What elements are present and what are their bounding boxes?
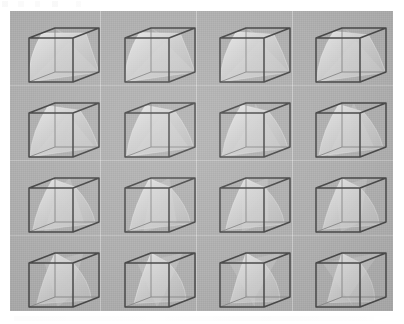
cube-diagram xyxy=(206,87,292,161)
cube-diagram xyxy=(111,237,197,311)
cube-diagram xyxy=(15,237,101,311)
cube-cell xyxy=(106,86,202,161)
cube-cell xyxy=(202,236,298,311)
cube-cell xyxy=(10,236,106,311)
cube-diagram xyxy=(302,237,388,311)
cube-cell xyxy=(297,11,393,86)
cube-cell xyxy=(297,86,393,161)
cube-diagram xyxy=(111,12,197,86)
cube-cell xyxy=(106,11,202,86)
cube-diagram xyxy=(206,162,292,236)
cube-cell xyxy=(297,236,393,311)
cube-cell xyxy=(106,161,202,236)
scan-noise-top xyxy=(2,1,122,7)
cube-cell xyxy=(202,86,298,161)
cube-diagram xyxy=(111,162,197,236)
cube-cell xyxy=(202,161,298,236)
figure-root xyxy=(0,0,404,324)
cube-diagram xyxy=(15,87,101,161)
cube-cell xyxy=(297,161,393,236)
cube-diagram xyxy=(206,237,292,311)
cube-diagram xyxy=(15,162,101,236)
cube-cell xyxy=(10,86,106,161)
cube-diagram xyxy=(302,162,388,236)
cube-diagram xyxy=(302,87,388,161)
scan-noise-bottom xyxy=(14,316,374,321)
cube-cell xyxy=(10,161,106,236)
cube-grid xyxy=(10,11,393,311)
cube-diagram xyxy=(302,12,388,86)
cube-diagram xyxy=(206,12,292,86)
figure-panel xyxy=(10,11,393,311)
cube-cell xyxy=(106,236,202,311)
cube-diagram xyxy=(15,12,101,86)
cube-cell xyxy=(202,11,298,86)
cube-cell xyxy=(10,11,106,86)
cube-diagram xyxy=(111,87,197,161)
